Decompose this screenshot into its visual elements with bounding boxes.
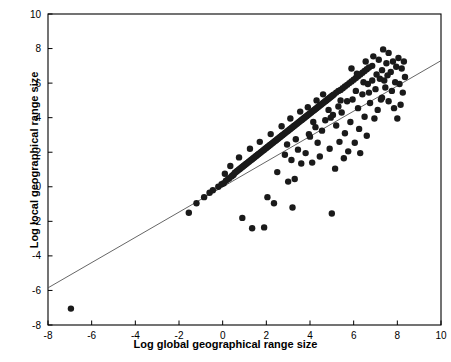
data-point [369, 77, 375, 83]
data-point [326, 146, 332, 152]
data-point [257, 139, 263, 145]
data-point [402, 74, 408, 80]
data-point [352, 140, 358, 146]
data-point [264, 194, 270, 200]
data-point [239, 215, 245, 221]
data-point [397, 102, 403, 108]
data-point [282, 152, 288, 158]
data-point [356, 126, 362, 132]
data-point [328, 114, 334, 120]
data-point [381, 77, 387, 83]
data-point [305, 104, 311, 110]
y-tick-label: -8 [32, 320, 41, 331]
data-point [383, 60, 389, 66]
data-point [348, 65, 354, 71]
data-point [295, 146, 301, 152]
data-point [236, 154, 242, 160]
data-point [249, 225, 255, 231]
data-point [320, 91, 326, 97]
data-point [293, 136, 299, 142]
data-point [329, 210, 335, 216]
data-point [333, 122, 339, 128]
data-point [366, 89, 372, 95]
data-point [287, 115, 293, 121]
data-point [389, 88, 395, 94]
data-point [380, 46, 386, 52]
data-point [357, 150, 363, 156]
data-point [376, 57, 382, 63]
data-point [274, 169, 280, 175]
data-point [310, 119, 316, 125]
y-axis-title: Log local geographical range size [28, 30, 40, 290]
data-point [354, 70, 360, 76]
data-point [341, 155, 347, 161]
data-point [382, 84, 388, 90]
data-point [335, 103, 341, 109]
data-point [247, 146, 253, 152]
data-point [289, 204, 295, 210]
data-point [359, 91, 365, 97]
data-point [344, 98, 350, 104]
data-point [285, 178, 291, 184]
data-point [379, 67, 385, 73]
data-point [361, 114, 367, 120]
data-point [372, 86, 378, 92]
scatter-chart: -8-6-4-20246810-8-6-4-20246810 Log globa… [0, 0, 451, 362]
data-point [390, 58, 396, 64]
data-point [394, 115, 400, 121]
data-point [369, 63, 375, 69]
y-tick-label: 10 [30, 9, 42, 20]
data-point [288, 157, 294, 163]
data-point [317, 153, 323, 159]
data-point [400, 89, 406, 95]
data-point [298, 160, 304, 166]
data-point [292, 176, 298, 182]
data-point [193, 200, 199, 206]
data-point [309, 159, 315, 165]
data-point [271, 200, 277, 206]
data-point [391, 105, 397, 111]
data-point [349, 96, 355, 102]
data-point [210, 187, 216, 193]
data-point [345, 148, 351, 154]
data-point [370, 53, 376, 59]
data-point [336, 139, 342, 145]
data-point [388, 69, 394, 75]
data-point [302, 150, 308, 156]
data-point [385, 98, 391, 104]
data-point [201, 194, 207, 200]
data-point [314, 140, 320, 146]
data-point [399, 65, 405, 71]
data-point [342, 130, 348, 136]
data-point [360, 79, 366, 85]
data-point [332, 165, 338, 171]
data-point [337, 97, 343, 103]
data-point [353, 88, 359, 94]
data-point [297, 108, 303, 114]
data-point [322, 117, 328, 123]
data-point [401, 58, 407, 64]
data-point [378, 96, 384, 102]
data-point [364, 133, 370, 139]
data-point [278, 123, 284, 129]
data-point [338, 109, 344, 115]
data-point [373, 71, 379, 77]
plot-frame [48, 14, 441, 325]
data-point [222, 171, 228, 177]
data-point [374, 107, 380, 113]
data-point [367, 100, 373, 106]
data-point [227, 163, 233, 169]
data-point [325, 107, 331, 113]
data-point [261, 224, 267, 230]
data-point [395, 55, 401, 61]
data-point [68, 305, 74, 311]
data-point [396, 81, 402, 87]
data-point [284, 141, 290, 147]
data-point [268, 131, 274, 137]
data-point [371, 115, 377, 121]
data-point [306, 131, 312, 137]
data-point [355, 105, 361, 111]
data-point [319, 127, 325, 133]
data-point [186, 209, 192, 215]
data-point [385, 50, 391, 56]
